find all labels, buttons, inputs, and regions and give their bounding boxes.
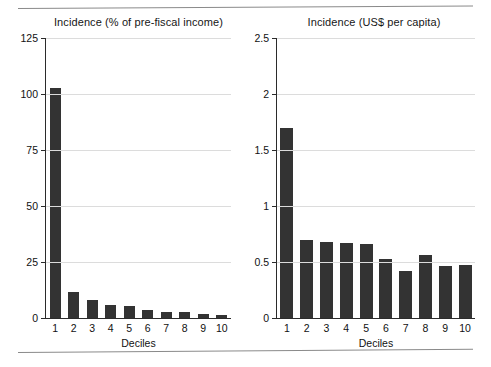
x-axis-tick-label: 4 — [108, 322, 114, 334]
x-axis-tick-label: 4 — [343, 322, 349, 334]
gridline — [277, 38, 475, 39]
bar-slot: 10 — [455, 38, 475, 318]
x-axis-label: Deciles — [46, 337, 231, 349]
x-axis-tick-label: 10 — [216, 322, 228, 334]
x-axis-tick-label: 7 — [163, 322, 169, 334]
y-axis-tick-label: 0.5 — [254, 256, 269, 268]
bar — [459, 265, 472, 318]
bar-slot: 8 — [416, 38, 436, 318]
gridline — [46, 262, 231, 263]
x-axis-line — [276, 318, 475, 319]
y-axis-tick-label: 25 — [26, 256, 38, 268]
bar — [439, 266, 452, 318]
bar-slot: 4 — [336, 38, 356, 318]
bar — [280, 128, 293, 318]
y-axis-tick-label: 125 — [20, 32, 38, 44]
x-axis-tick-label: 10 — [459, 322, 471, 334]
chart-panel-incidence-percent: Incidence (% of pre-fiscal income) 12345… — [0, 14, 245, 346]
bar-slot: 9 — [435, 38, 455, 318]
bar-slot: 6 — [376, 38, 396, 318]
chart-title: Incidence (US$ per capita) — [245, 16, 491, 28]
y-axis-tick-label: 75 — [26, 144, 38, 156]
y-axis-tick-label: 100 — [20, 88, 38, 100]
bar-slot: 3 — [317, 38, 337, 318]
gridline — [46, 150, 231, 151]
bar-slot: 1 — [277, 38, 297, 318]
y-axis-tick — [41, 262, 46, 263]
bar-series: 12345678910 — [46, 38, 231, 318]
bar — [320, 242, 333, 318]
chart-panels: Incidence (% of pre-fiscal income) 12345… — [0, 14, 491, 346]
chart-panel-incidence-usd: Incidence (US$ per capita) 12345678910 D… — [245, 14, 491, 346]
x-axis-tick-label: 3 — [89, 322, 95, 334]
bar — [419, 255, 432, 318]
bar-slot: 4 — [102, 38, 121, 318]
bar — [161, 312, 172, 318]
x-axis-tick-label: 6 — [145, 322, 151, 334]
page-rule-top — [18, 5, 473, 9]
bar — [87, 300, 98, 318]
y-axis-tick-label: 50 — [26, 200, 38, 212]
y-axis-tick — [272, 262, 277, 263]
gridline — [277, 206, 475, 207]
x-axis-tick-label: 8 — [423, 322, 429, 334]
bar — [124, 306, 135, 318]
bar — [379, 259, 392, 318]
figure-page: Incidence (% of pre-fiscal income) 12345… — [0, 0, 491, 367]
bar — [399, 271, 412, 318]
bar — [142, 310, 153, 318]
chart-title: Incidence (% of pre-fiscal income) — [0, 16, 261, 28]
gridline — [277, 262, 475, 263]
y-axis-tick — [41, 318, 46, 319]
y-axis-tick — [272, 150, 277, 151]
bar — [198, 314, 209, 318]
bar-slot: 1 — [46, 38, 65, 318]
bar — [105, 305, 116, 318]
x-axis-tick-label: 8 — [182, 322, 188, 334]
plot-area: 12345678910 Deciles 00.511.522.5 — [277, 38, 475, 318]
x-axis-tick-label: 1 — [284, 322, 290, 334]
bar-slot: 5 — [356, 38, 376, 318]
y-axis-tick-label: 0 — [32, 312, 38, 324]
bar-slot: 7 — [157, 38, 176, 318]
x-axis-tick-label: 3 — [324, 322, 330, 334]
y-axis-tick — [41, 94, 46, 95]
bar-slot: 7 — [396, 38, 416, 318]
x-axis-tick-label: 1 — [52, 322, 58, 334]
y-axis-tick-label: 1.5 — [254, 144, 269, 156]
y-axis-tick — [272, 206, 277, 207]
bar-slot: 9 — [194, 38, 213, 318]
y-axis-tick-label: 2 — [263, 88, 269, 100]
y-axis-tick — [41, 38, 46, 39]
x-axis-tick-label: 7 — [403, 322, 409, 334]
y-axis-tick — [272, 318, 277, 319]
x-axis-tick-label: 9 — [442, 322, 448, 334]
bar-slot: 10 — [213, 38, 232, 318]
y-axis-tick — [272, 38, 277, 39]
bar-slot: 6 — [139, 38, 158, 318]
gridline — [46, 206, 231, 207]
bar — [300, 240, 313, 318]
bar — [68, 292, 79, 318]
x-axis-tick-label: 2 — [304, 322, 310, 334]
x-axis-tick-label: 6 — [383, 322, 389, 334]
x-axis-tick-label: 9 — [200, 322, 206, 334]
y-axis-tick-label: 1 — [263, 200, 269, 212]
y-axis-tick-label: 2.5 — [254, 32, 269, 44]
x-axis-tick-label: 5 — [126, 322, 132, 334]
bar — [50, 88, 61, 318]
gridline — [46, 94, 231, 95]
bar — [340, 243, 353, 318]
y-axis-tick-label: 0 — [263, 312, 269, 324]
gridline — [277, 94, 475, 95]
x-axis-tick-label: 2 — [71, 322, 77, 334]
bar-slot: 2 — [297, 38, 317, 318]
bar-slot: 2 — [65, 38, 84, 318]
y-axis-tick — [41, 206, 46, 207]
bar — [216, 315, 227, 318]
bar-slot: 3 — [83, 38, 102, 318]
y-axis-tick — [272, 94, 277, 95]
bar-slot: 5 — [120, 38, 139, 318]
plot-area: 12345678910 Deciles 0255075100125 — [46, 38, 231, 318]
x-axis-tick-label: 5 — [363, 322, 369, 334]
